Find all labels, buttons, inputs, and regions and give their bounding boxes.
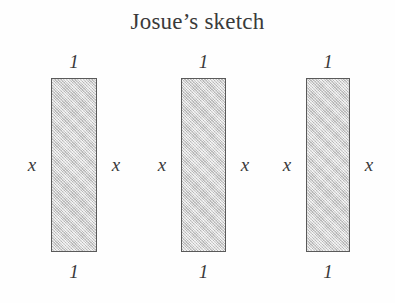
rectangle-3-left-label: x [276,155,298,175]
rectangle-1-right-label: x [105,155,127,175]
rectangle-3-right-label: x [358,155,380,175]
rectangle-2-top-label: 1 [181,52,226,72]
rectangle-1-shape [51,78,97,252]
rectangle-1-left-label: x [21,155,43,175]
rectangle-group-2: 1 x x 1 [181,50,226,295]
rectangle-1-top-label: 1 [51,52,97,72]
rectangle-2-left-label: x [151,155,173,175]
rectangle-group-1: 1 x x 1 [51,50,97,295]
rectangle-1-bottom-label: 1 [51,262,97,282]
sketch-figure: Josue’s sketch 1 x x 1 1 x x 1 1 x x 1 [0,0,395,303]
rectangle-2-shape [181,78,226,252]
rectangle-2-bottom-label: 1 [181,262,226,282]
rectangle-2-right-label: x [234,155,256,175]
figure-area: 1 x x 1 1 x x 1 1 x x 1 [0,0,395,303]
rectangle-3-top-label: 1 [306,52,350,72]
rectangle-3-shape [306,78,350,252]
rectangle-3-bottom-label: 1 [306,262,350,282]
rectangle-group-3: 1 x x 1 [306,50,350,295]
